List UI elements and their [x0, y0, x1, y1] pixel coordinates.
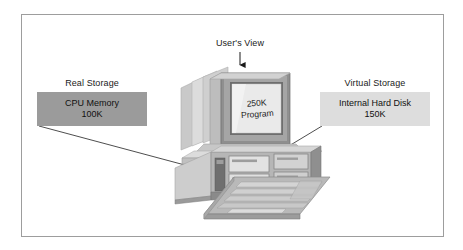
leader-line-real-storage — [39, 126, 196, 168]
virtual-storage-box-line2: 150K — [364, 109, 385, 121]
figure-root: User's View Real Storage Virtual Storage… — [0, 0, 463, 250]
users-view-label: User's View — [195, 38, 285, 48]
real-storage-label: Real Storage — [37, 78, 147, 88]
real-storage-box: CPU Memory 100K — [37, 92, 147, 126]
virtual-storage-box: Internal Hard Disk 150K — [320, 92, 430, 126]
screen-text: 250K Program — [233, 96, 280, 121]
virtual-storage-label: Virtual Storage — [320, 78, 430, 88]
virtual-storage-box-line1: Internal Hard Disk — [339, 98, 411, 110]
real-storage-box-line2: 100K — [81, 109, 102, 121]
desktop-computer-icon — [175, 67, 330, 219]
real-storage-box-line1: CPU Memory — [65, 98, 119, 110]
